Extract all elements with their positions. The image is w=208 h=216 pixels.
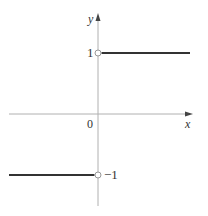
x-axis-arrow-icon [185, 112, 193, 117]
step-function-plot: y x 0 1 −1 [0, 0, 208, 216]
y-tick-label-1: 1 [87, 45, 94, 60]
y-axis-label: y [87, 12, 94, 26]
lower-step-segment [9, 172, 101, 178]
origin-label: 0 [87, 117, 93, 131]
x-axis-label: x [184, 117, 191, 131]
open-circle-upper-icon [95, 50, 101, 56]
x-axis [9, 112, 193, 117]
open-circle-lower-icon [95, 172, 101, 178]
y-tick-label-neg-1: −1 [104, 167, 118, 182]
y-axis-arrow-icon [96, 13, 101, 21]
upper-step-segment [95, 50, 190, 56]
